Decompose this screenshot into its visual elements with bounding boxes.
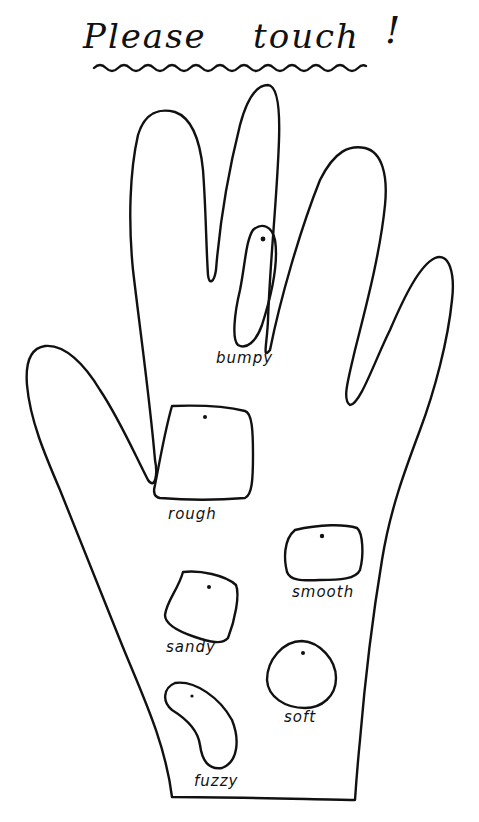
patch-rough[interactable] <box>154 406 253 500</box>
label-sandy: sandy <box>166 638 216 656</box>
label-fuzzy: fuzzy <box>194 772 238 790</box>
smooth-dot <box>320 534 324 538</box>
patch-smooth[interactable] <box>285 525 362 580</box>
patch-soft[interactable] <box>267 641 336 708</box>
touch-board: Please touch ! bumpy rough smooth sandy … <box>0 0 479 822</box>
fuzzy-dot <box>190 694 193 697</box>
hand-outline <box>27 85 453 800</box>
patch-sandy[interactable] <box>165 572 237 643</box>
title-exclamation: ! <box>385 8 402 52</box>
wavy-underline <box>94 65 366 71</box>
label-soft: soft <box>284 708 316 726</box>
label-smooth: smooth <box>292 583 354 601</box>
patch-fuzzy[interactable] <box>165 683 236 769</box>
label-bumpy: bumpy <box>216 349 273 367</box>
title-word-touch: touch <box>253 16 360 56</box>
title-word-please: Please <box>83 16 207 56</box>
bumpy-dot <box>261 237 266 242</box>
label-rough: rough <box>168 505 217 523</box>
sandy-dot <box>207 585 211 589</box>
rough-dot <box>203 415 207 419</box>
soft-dot <box>301 651 305 655</box>
